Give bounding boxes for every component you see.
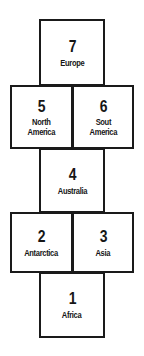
cell-label: Australia: [57, 186, 86, 196]
cell-number: 3: [99, 228, 106, 245]
cell-africa[interactable]: 1 Africa: [39, 272, 105, 338]
continents-hopscotch-diagram: 7 Europe 5 North America 6 Sout America …: [0, 0, 144, 356]
cell-label: Africa: [62, 310, 81, 320]
cell-number: 2: [38, 228, 45, 245]
cell-australia[interactable]: 4 Australia: [39, 148, 105, 213]
cell-label: Europe: [60, 58, 84, 68]
cell-number: 7: [68, 38, 75, 55]
cell-label: Antarctica: [25, 248, 59, 258]
cell-north-america[interactable]: 5 North America: [10, 85, 73, 149]
cell-number: 1: [68, 290, 75, 307]
cell-label: Asia: [96, 248, 111, 258]
cell-number: 5: [38, 98, 45, 115]
cell-asia[interactable]: 3 Asia: [72, 212, 134, 273]
cell-number: 6: [99, 98, 106, 115]
cell-number: 4: [68, 166, 75, 183]
cell-europe[interactable]: 7 Europe: [39, 19, 105, 86]
cell-antarctica[interactable]: 2 Antarctica: [10, 212, 73, 273]
cell-label: Sout America: [89, 117, 116, 137]
cell-south-america[interactable]: 6 Sout America: [72, 85, 134, 149]
cell-label: North America: [28, 117, 55, 137]
